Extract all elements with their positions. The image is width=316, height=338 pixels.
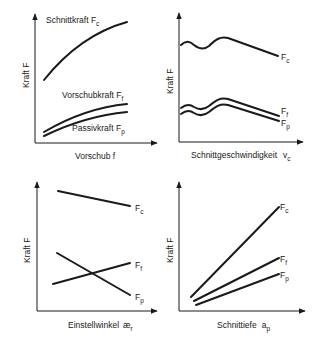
y-axis-label: Kraft F — [22, 237, 32, 263]
label-fc: Fc — [135, 203, 144, 215]
panel-vorschub: Kraft F Vorschub f Schnittkraft Fc Vorsc… — [21, 14, 157, 161]
label-fc: Fc — [280, 202, 289, 214]
curve-fc — [44, 22, 127, 80]
label-fc: Schnittkraft Fc — [46, 15, 100, 27]
y-axis-label: Kraft F — [165, 237, 175, 263]
x-axis-label: Einstellwinkelær — [68, 320, 134, 332]
label-ff: Ff — [135, 260, 142, 272]
curve-fp — [57, 253, 130, 295]
panel-einstellwinkel: Kraft F Einstellwinkelær Fc Ff Fp — [22, 182, 157, 332]
curve-fc — [191, 207, 279, 297]
x-axis-label: Schnittgeschwindigkeitvc — [191, 150, 291, 162]
panel-schnittgeschwindigkeit: Kraft F Schnittgeschwindigkeitvc Fc Ff F… — [165, 13, 303, 162]
y-axis-label: Kraft F — [165, 68, 175, 94]
label-fc: Fc — [281, 52, 290, 64]
x-axis-label: Vorschub f — [75, 151, 116, 161]
label-ff: Ff — [280, 254, 287, 266]
curve-fc — [181, 37, 278, 56]
x-axis-label: Schnittiefeap — [217, 320, 270, 333]
label-fp: Fp — [280, 270, 289, 283]
label-fp: Passivkraft Fp — [72, 123, 125, 136]
label-ff: Ff — [281, 106, 288, 118]
curve-fc — [58, 191, 130, 206]
label-fp: Fp — [281, 118, 290, 131]
label-ff: Vorschubkraft Ff — [62, 90, 124, 102]
force-diagrams: Kraft F Vorschub f Schnittkraft Fc Vorsc… — [0, 0, 316, 338]
panel-schnittiefe: Kraft F Schnittiefeap Fc Ff Fp — [165, 182, 305, 333]
y-axis-label: Kraft F — [21, 62, 31, 88]
label-fp: Fp — [135, 292, 144, 305]
